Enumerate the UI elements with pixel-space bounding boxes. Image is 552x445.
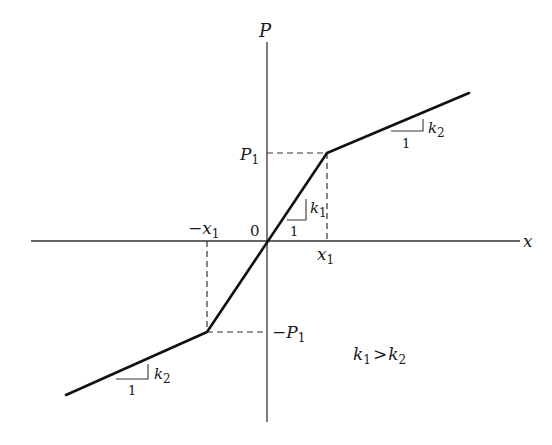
stiffness-condition: k1>k2 [353, 344, 406, 367]
p1-label: P1 [239, 144, 259, 167]
origin-label: 0 [250, 222, 260, 240]
svg-text:k1: k1 [310, 199, 327, 220]
x1-label: x1 [317, 244, 334, 267]
svg-text:1: 1 [402, 136, 410, 151]
neg-x1-label: −x1 [188, 218, 219, 241]
svg-text:k2: k2 [428, 119, 445, 140]
neg-p1-label: −P1 [272, 322, 305, 345]
bilinear-stiffness-diagram: x P 0 P1 −P1 x1 −x1 1 k1 1 k2 [0, 0, 552, 445]
svg-text:k2: k2 [154, 365, 171, 386]
x-axis-label: x [523, 231, 533, 251]
y-axis-label: P [258, 20, 272, 41]
svg-text:1: 1 [128, 383, 136, 398]
svg-text:1: 1 [290, 224, 298, 239]
